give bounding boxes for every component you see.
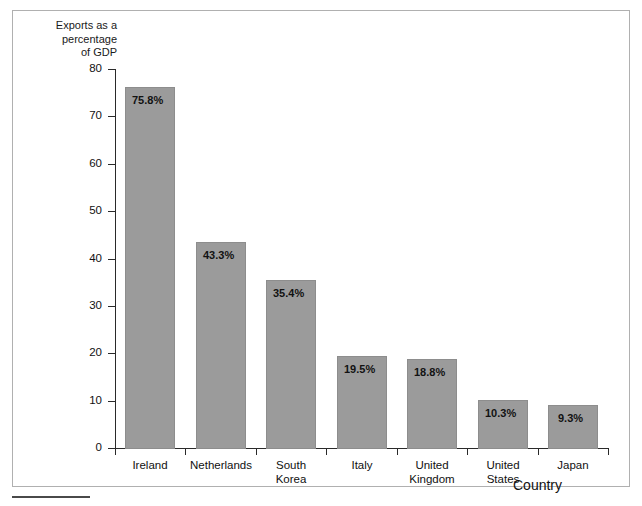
bar-value-japan: 9.3%: [558, 412, 583, 424]
y-tick-label-50: 50: [62, 204, 102, 216]
x-tick-6: [538, 448, 539, 455]
y-tick-label-70: 70: [62, 109, 102, 121]
y-tick-label-10: 10: [62, 394, 102, 406]
bar-value-netherlands: 43.3%: [203, 249, 234, 261]
y-tick-40: [108, 259, 115, 260]
bar-value-ireland: 75.8%: [132, 94, 163, 106]
x-tick-1: [185, 448, 186, 455]
y-tick-80: [108, 69, 115, 70]
y-axis-line: [115, 69, 116, 449]
x-tick-7: [608, 448, 609, 455]
bar-value-south-korea: 35.4%: [273, 287, 304, 299]
bar-ireland[interactable]: [125, 87, 175, 449]
y-tick-0: [108, 448, 115, 449]
y-tick-label-30: 30: [62, 299, 102, 311]
y-tick-30: [108, 306, 115, 307]
y-tick-70: [108, 116, 115, 117]
bar-value-italy: 19.5%: [344, 363, 375, 375]
footnote-rule: [12, 496, 90, 498]
x-tick-3: [326, 448, 327, 455]
bar-south-korea[interactable]: [266, 280, 316, 449]
bar-value-united-states: 10.3%: [485, 407, 516, 419]
bar-value-united-kingdom: 18.8%: [414, 366, 445, 378]
y-tick-60: [108, 164, 115, 165]
category-label-united-kingdom: United Kingdom: [392, 458, 472, 486]
category-label-south-korea: South Korea: [251, 458, 331, 486]
x-tick-5: [467, 448, 468, 455]
category-label-ireland: Ireland: [110, 458, 190, 472]
category-label-netherlands: Netherlands: [181, 458, 261, 472]
y-axis-title: Exports as a percentage of GDP: [25, 19, 117, 60]
y-tick-label-80: 80: [62, 62, 102, 74]
y-tick-label-0: 0: [62, 441, 102, 453]
x-axis-title: Country: [513, 477, 562, 493]
y-tick-label-40: 40: [62, 252, 102, 264]
y-tick-label-20: 20: [62, 346, 102, 358]
y-tick-10: [108, 401, 115, 402]
category-label-japan: Japan: [533, 458, 613, 472]
x-tick-0: [115, 448, 116, 455]
x-tick-4: [397, 448, 398, 455]
figure-frame: Exports as a percentage of GDP 80 70 60 …: [12, 10, 630, 487]
y-tick-label-60: 60: [62, 157, 102, 169]
x-tick-2: [256, 448, 257, 455]
bar-chart: Exports as a percentage of GDP 80 70 60 …: [13, 11, 631, 488]
category-label-italy: Italy: [322, 458, 402, 472]
y-tick-50: [108, 211, 115, 212]
y-tick-20: [108, 353, 115, 354]
bar-netherlands[interactable]: [196, 242, 246, 449]
